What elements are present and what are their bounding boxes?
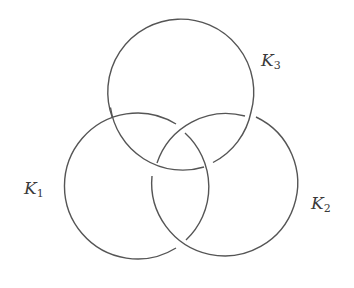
label-k3: K3 [261,52,281,71]
label-k2-sub: 2 [324,202,331,215]
label-k2-main: K [311,193,324,213]
label-k2: K2 [311,195,331,214]
label-k1: K1 [24,180,44,199]
ring-k3 [108,19,254,162]
ring-k1-right-arc [185,133,209,240]
label-k3-main: K [261,50,274,70]
label-k1-main: K [24,178,37,198]
label-k3-sub: 3 [274,59,281,72]
borromean-rings-diagram [0,0,354,288]
ring-k2 [152,117,298,256]
label-k1-sub: 1 [37,187,44,200]
